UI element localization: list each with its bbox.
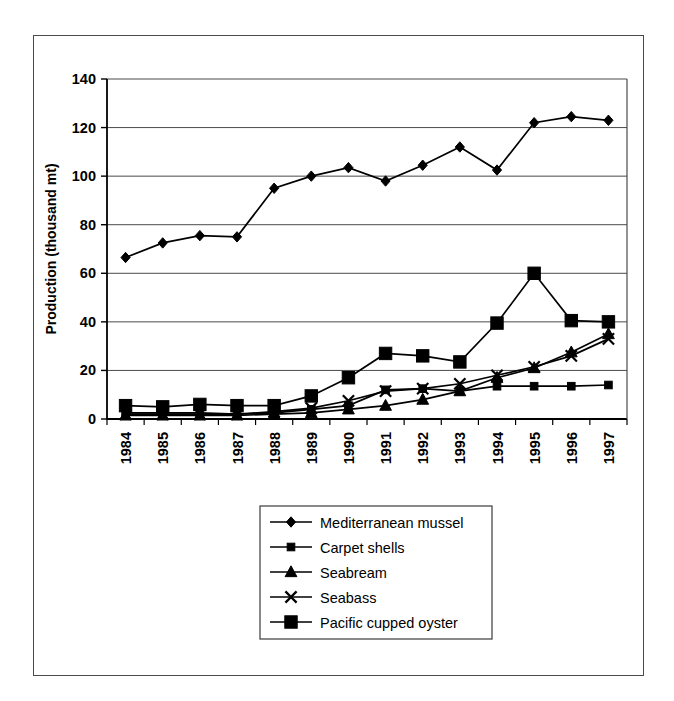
marker-diamond [604,115,613,125]
marker-large-square [602,316,614,328]
marker-diamond [195,230,204,240]
marker-large-square [491,317,503,329]
marker-diamond [121,252,130,262]
marker-small-square [605,381,613,389]
x-tick-label-1986: 1986 [192,432,208,464]
x-tick-label-1984: 1984 [118,432,134,464]
legend-label: Seabass [320,590,376,606]
marker-small-square [456,387,464,395]
marker-large-square [194,398,206,410]
marker-small-square [382,386,390,394]
y-tick-label-100: 100 [72,168,96,184]
series-pacific-cupped-oyster [119,267,614,413]
x-tick-label-1985: 1985 [155,432,171,464]
marker-large-square [454,356,466,368]
x-tick-label-1993: 1993 [452,432,468,464]
marker-diamond [158,238,167,248]
marker-diamond [455,142,464,152]
x-tick-label-1990: 1990 [341,432,357,464]
x-tick-label-1994: 1994 [490,432,506,464]
x-tick-label-1991: 1991 [378,432,394,464]
legend-label: Carpet shells [320,540,405,556]
y-tick-label-20: 20 [80,362,96,378]
marker-large-square [565,314,577,326]
marker-large-square [119,399,131,411]
marker-diamond [307,171,316,181]
marker-large-square [528,267,540,279]
marker-small-square [287,543,295,551]
legend-label: Seabream [320,565,387,581]
y-tick-label-60: 60 [80,265,96,281]
marker-diamond [567,111,576,121]
marker-small-square [345,402,353,410]
marker-large-square [417,350,429,362]
marker-large-square [305,390,317,402]
legend-item-seabass[interactable]: Seabass [270,590,376,606]
marker-small-square [530,382,538,390]
marker-small-square [567,382,575,390]
x-tick-label-1997: 1997 [601,432,617,464]
legend-label: Mediterranean mussel [320,515,463,531]
legend-label: Pacific cupped oyster [320,615,458,631]
y-axis-title: Production (thousand mt) [43,163,59,334]
x-tick-label-1988: 1988 [267,432,283,464]
marker-large-square [231,399,243,411]
y-tick-label-80: 80 [80,217,96,233]
series-mediterranean-mussel [121,111,613,262]
marker-large-square [285,616,297,628]
chart-canvas: 0204060801001201401984198519861987198819… [34,36,642,674]
x-tick-label-1987: 1987 [230,432,246,464]
x-tick-label-1995: 1995 [527,432,543,464]
y-tick-label-40: 40 [80,314,96,330]
marker-small-square [307,405,315,413]
marker-large-square [379,347,391,359]
figure-frame: 0204060801001201401984198519861987198819… [33,35,644,676]
marker-diamond [418,160,427,170]
marker-small-square [493,382,501,390]
y-tick-label-0: 0 [88,411,96,427]
x-tick-label-1992: 1992 [415,432,431,464]
marker-diamond [381,176,390,186]
y-tick-label-120: 120 [72,120,96,136]
x-tick-label-1989: 1989 [304,432,320,464]
y-tick-label-140: 140 [72,71,96,87]
marker-large-square [268,399,280,411]
marker-small-square [419,385,427,393]
x-tick-label-1996: 1996 [564,432,580,464]
legend: Mediterranean musselCarpet shellsSeabrea… [260,506,492,639]
marker-diamond [344,162,353,172]
marker-large-square [342,372,354,384]
marker-large-square [157,401,169,413]
